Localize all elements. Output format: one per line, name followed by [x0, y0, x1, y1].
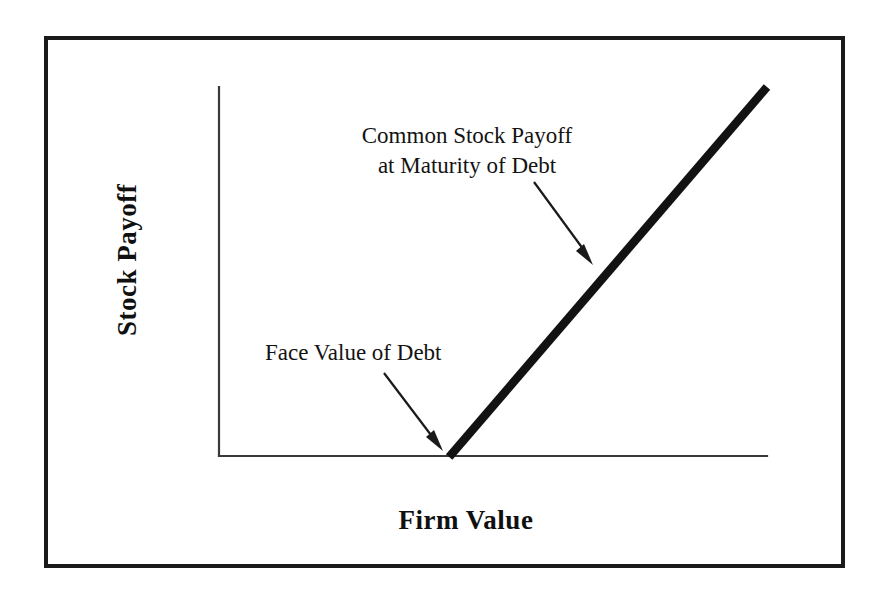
face-value-annotation: Face Value of Debt [265, 340, 442, 365]
x-axis-title: Firm Value [399, 505, 534, 535]
payoff-diagram: Stock Payoff Firm Value Common Stock Pay… [0, 0, 890, 600]
y-axis-title: Stock Payoff [112, 183, 142, 336]
face-value-leader-line [384, 373, 434, 439]
payoff-annotation-line-2: at Maturity of Debt [378, 153, 557, 178]
payoff-leader-line [534, 182, 586, 253]
figure-container: Stock Payoff Firm Value Common Stock Pay… [0, 0, 890, 600]
figure-border [46, 38, 843, 566]
payoff-annotation-line-1: Common Stock Payoff [362, 123, 573, 148]
payoff-arrow-head-icon [576, 244, 593, 265]
